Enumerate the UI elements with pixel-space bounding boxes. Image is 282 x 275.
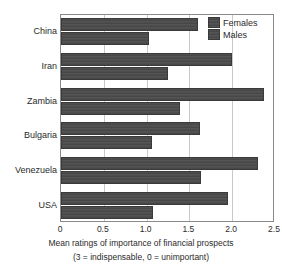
bar-bulgaria-males (61, 136, 152, 149)
bar-group (61, 122, 273, 150)
x-axis-tick-labels: 00.51.01.52.02.5 (0, 224, 282, 238)
bar-iran-females (61, 53, 232, 66)
legend-label: Females (223, 18, 258, 28)
bar-china-females (61, 18, 198, 31)
bar-bulgaria-females (61, 122, 200, 135)
legend-swatch-icon (208, 29, 220, 40)
bars-layer (61, 15, 273, 221)
y-axis-category-labels: ChinaIranZambiaBulgariaVenezuelaUSA (0, 14, 57, 222)
x-tick-label: 1.0 (140, 224, 152, 234)
bar-group (61, 53, 273, 81)
x-tick-label: 2.0 (225, 224, 237, 234)
bar-group (61, 88, 273, 116)
bar-group (61, 192, 273, 220)
x-tick-label: 0 (58, 224, 63, 234)
chart-legend: FemalesMales (208, 17, 258, 40)
bar-chart-figure: ChinaIranZambiaBulgariaVenezuelaUSA 00.5… (0, 0, 282, 275)
x-axis-subtitle: (3 = indispensable, 0 = unimportant) (0, 252, 282, 263)
bar-iran-males (61, 67, 168, 80)
bar-zambia-females (61, 88, 264, 101)
x-axis-title: Mean ratings of importance of financial … (0, 238, 282, 249)
y-axis-label-bulgaria: Bulgaria (1, 130, 57, 140)
legend-swatch-icon (208, 17, 220, 28)
y-axis-label-china: China (1, 26, 57, 36)
y-axis-label-usa: USA (1, 200, 57, 210)
bar-usa-males (61, 206, 153, 219)
legend-item-females: Females (208, 17, 258, 28)
bar-venezuela-females (61, 157, 258, 170)
x-tick-label: 2.5 (268, 224, 280, 234)
bar-china-males (61, 32, 149, 45)
y-axis-label-zambia: Zambia (1, 96, 57, 106)
y-axis-label-iran: Iran (1, 61, 57, 71)
bar-group (61, 157, 273, 185)
legend-label: Males (223, 30, 247, 40)
legend-item-males: Males (208, 29, 258, 40)
x-tick-label: 1.5 (182, 224, 194, 234)
bar-zambia-males (61, 102, 180, 115)
bar-venezuela-males (61, 171, 201, 184)
y-axis-label-venezuela: Venezuela (1, 165, 57, 175)
bar-usa-females (61, 192, 228, 205)
plot-area (60, 14, 274, 222)
x-tick-label: 0.5 (97, 224, 109, 234)
